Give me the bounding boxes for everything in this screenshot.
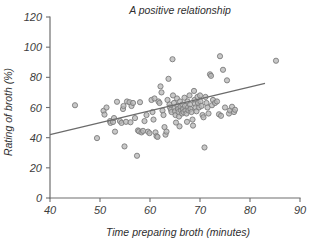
- y-axis-ticks: 020406080100120: [24, 11, 50, 204]
- data-point: [206, 111, 211, 116]
- data-point: [224, 78, 229, 83]
- data-point: [222, 105, 227, 110]
- data-point: [208, 73, 213, 78]
- x-tick-label: 50: [94, 204, 107, 216]
- data-point-group: [72, 54, 278, 159]
- data-point: [72, 103, 77, 108]
- y-axis-title: Rating of broth (%): [2, 68, 14, 156]
- y-tick-label: 120: [24, 11, 43, 23]
- x-axis-ticks: 405060708090: [44, 198, 307, 216]
- data-point: [134, 153, 139, 158]
- data-point: [190, 123, 195, 128]
- data-point: [157, 100, 162, 105]
- data-point: [130, 100, 135, 105]
- x-tick-label: 90: [294, 204, 307, 216]
- data-point: [220, 67, 225, 72]
- data-point: [191, 88, 196, 93]
- data-point: [164, 129, 169, 134]
- x-tick-label: 80: [244, 204, 257, 216]
- data-point: [128, 120, 133, 125]
- data-point: [273, 58, 278, 63]
- data-point: [170, 57, 175, 62]
- data-point: [112, 129, 117, 134]
- data-point: [132, 115, 137, 120]
- data-point: [161, 112, 166, 117]
- y-tick-label: 80: [30, 71, 43, 83]
- data-point: [177, 124, 182, 129]
- y-tick-label: 60: [30, 102, 43, 114]
- y-tick-label: 20: [29, 162, 43, 174]
- data-point: [159, 90, 164, 95]
- data-point: [137, 100, 142, 105]
- data-point: [189, 109, 194, 114]
- data-point: [184, 119, 189, 124]
- data-point: [232, 107, 237, 112]
- x-tick-label: 40: [44, 204, 57, 216]
- data-point: [122, 144, 127, 149]
- data-point: [151, 117, 156, 122]
- y-tick-label: 0: [36, 192, 43, 204]
- data-point: [217, 54, 222, 59]
- y-tick-label: 100: [24, 41, 43, 53]
- x-tick-label: 60: [144, 204, 157, 216]
- data-point: [190, 117, 195, 122]
- data-point: [201, 115, 206, 120]
- data-point: [142, 118, 147, 123]
- data-point: [199, 103, 204, 108]
- data-point: [140, 128, 145, 133]
- x-tick-label: 70: [194, 204, 207, 216]
- data-point: [102, 112, 107, 117]
- data-point: [121, 103, 126, 108]
- data-point: [147, 131, 152, 136]
- data-point: [202, 145, 207, 150]
- chart-canvas: A positive relationship 020406080100120 …: [0, 0, 311, 242]
- data-point: [114, 99, 119, 104]
- data-point: [218, 113, 223, 118]
- data-point: [144, 112, 149, 117]
- data-point: [214, 99, 219, 104]
- data-point: [155, 134, 160, 139]
- data-point: [187, 93, 192, 98]
- x-axis-title: Time preparing broth (minutes): [106, 226, 250, 238]
- y-tick-label: 40: [30, 132, 43, 144]
- data-point: [166, 76, 171, 81]
- scatter-plot-figure: A positive relationship 020406080100120 …: [0, 0, 311, 242]
- data-point: [104, 105, 109, 110]
- data-point: [197, 93, 202, 98]
- data-point: [158, 84, 163, 89]
- data-point: [94, 136, 99, 141]
- chart-title: A positive relationship: [128, 4, 231, 16]
